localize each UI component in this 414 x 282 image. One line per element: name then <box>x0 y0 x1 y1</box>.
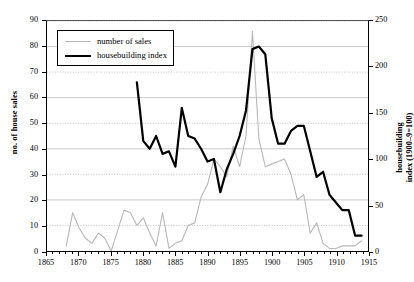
chart-figure: 0102030405060708090 050100150200250 1865… <box>0 0 414 282</box>
x-tick-mark-minor <box>65 252 66 254</box>
y-tick-label-left: 0 <box>20 248 38 256</box>
y-tick-mark-left <box>42 149 46 150</box>
y-axis-right-title-line1: housebuilding <box>395 93 404 203</box>
y-tick-label-left: 10 <box>20 222 38 230</box>
x-tick-mark-minor <box>85 252 86 254</box>
x-tick-mark-major <box>143 252 144 256</box>
y-axis-right-title: housebuilding index (1900–9=100) <box>392 88 406 198</box>
x-tick-mark-major <box>369 252 370 256</box>
y-tick-mark-right <box>369 20 373 21</box>
x-tick-mark-minor <box>162 252 163 254</box>
x-tick-mark-minor <box>169 252 170 254</box>
x-tick-mark-minor <box>363 252 364 254</box>
x-tick-mark-major <box>78 252 79 256</box>
x-tick-mark-minor <box>201 252 202 254</box>
x-tick-mark-minor <box>98 252 99 254</box>
x-tick-label: 1905 <box>288 259 320 267</box>
legend-line-swatch-index <box>63 50 93 60</box>
x-tick-mark-minor <box>285 252 286 254</box>
y-tick-label-left: 20 <box>20 196 38 204</box>
y-tick-label-left: 70 <box>20 68 38 76</box>
x-tick-mark-minor <box>291 252 292 254</box>
x-tick-mark-minor <box>214 252 215 254</box>
x-tick-mark-minor <box>220 252 221 254</box>
x-tick-mark-minor <box>72 252 73 254</box>
y-tick-mark-right <box>369 206 373 207</box>
x-tick-mark-major <box>304 252 305 256</box>
y-tick-mark-left <box>42 46 46 47</box>
x-tick-mark-major <box>272 252 273 256</box>
x-tick-mark-minor <box>233 252 234 254</box>
x-tick-mark-major <box>46 252 47 256</box>
x-tick-mark-minor <box>253 252 254 254</box>
legend: number of sales housebuilding index <box>57 30 174 66</box>
y-tick-mark-left <box>42 20 46 21</box>
x-tick-mark-minor <box>317 252 318 254</box>
y-tick-label-left: 40 <box>20 145 38 153</box>
x-tick-mark-minor <box>124 252 125 254</box>
x-tick-mark-minor <box>149 252 150 254</box>
x-tick-mark-minor <box>182 252 183 254</box>
x-tick-mark-major <box>111 252 112 256</box>
y-tick-label-right: 200 <box>375 62 397 70</box>
x-tick-label: 1875 <box>95 259 127 267</box>
legend-item-number-of-sales: number of sales <box>63 34 168 48</box>
x-tick-mark-minor <box>311 252 312 254</box>
x-tick-mark-minor <box>356 252 357 254</box>
y-axis-right-title-line2: index (1900–9=100) <box>405 93 414 203</box>
y-tick-mark-left <box>42 123 46 124</box>
y-tick-label-right: 0 <box>375 248 397 256</box>
x-tick-mark-minor <box>117 252 118 254</box>
x-tick-mark-minor <box>130 252 131 254</box>
x-tick-mark-minor <box>195 252 196 254</box>
x-tick-mark-minor <box>246 252 247 254</box>
y-tick-label-left: 50 <box>20 119 38 127</box>
y-tick-mark-left <box>42 72 46 73</box>
x-tick-label: 1870 <box>62 259 94 267</box>
y-tick-label-right: 250 <box>375 16 397 24</box>
x-tick-mark-minor <box>266 252 267 254</box>
x-tick-label: 1865 <box>30 259 62 267</box>
y-tick-label-right: 50 <box>375 202 397 210</box>
x-tick-mark-minor <box>188 252 189 254</box>
y-tick-mark-left <box>42 200 46 201</box>
x-tick-label: 1890 <box>192 259 224 267</box>
y-tick-label-left: 80 <box>20 42 38 50</box>
x-tick-mark-minor <box>52 252 53 254</box>
x-tick-mark-minor <box>91 252 92 254</box>
x-tick-mark-minor <box>343 252 344 254</box>
x-tick-mark-minor <box>59 252 60 254</box>
x-tick-label: 1915 <box>353 259 385 267</box>
x-tick-mark-minor <box>136 252 137 254</box>
legend-item-housebuilding-index: housebuilding index <box>63 48 168 62</box>
x-tick-mark-minor <box>156 252 157 254</box>
x-tick-mark-minor <box>330 252 331 254</box>
x-tick-mark-minor <box>298 252 299 254</box>
legend-label-sales: number of sales <box>93 36 151 46</box>
x-tick-mark-major <box>240 252 241 256</box>
x-tick-label: 1880 <box>127 259 159 267</box>
y-tick-mark-right <box>369 113 373 114</box>
x-tick-mark-minor <box>259 252 260 254</box>
x-tick-mark-minor <box>350 252 351 254</box>
y-tick-mark-left <box>42 97 46 98</box>
legend-line-swatch-sales <box>63 36 93 46</box>
y-axis-left-title: no. of house sales <box>10 73 19 173</box>
x-tick-label: 1885 <box>159 259 191 267</box>
x-tick-mark-minor <box>227 252 228 254</box>
y-tick-mark-left <box>42 226 46 227</box>
x-tick-mark-minor <box>279 252 280 254</box>
x-tick-mark-minor <box>324 252 325 254</box>
y-tick-mark-right <box>369 159 373 160</box>
x-tick-mark-major <box>337 252 338 256</box>
y-tick-label-left: 60 <box>20 93 38 101</box>
x-tick-mark-minor <box>104 252 105 254</box>
x-tick-label: 1900 <box>256 259 288 267</box>
series-line-housebuilding-index <box>137 47 362 236</box>
x-tick-label: 1895 <box>224 259 256 267</box>
x-tick-mark-major <box>175 252 176 256</box>
y-tick-label-left: 90 <box>20 16 38 24</box>
x-tick-mark-major <box>208 252 209 256</box>
legend-label-index: housebuilding index <box>93 50 167 60</box>
y-tick-mark-right <box>369 66 373 67</box>
